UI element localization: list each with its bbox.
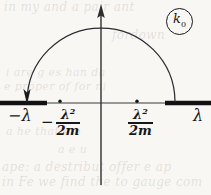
diagram-canvas — [0, 0, 211, 195]
marked-point-right-pole — [135, 100, 138, 103]
complex-plane-contour-figure: in my and a pair ant fordown i are g es … — [0, 0, 211, 195]
marked-point-left-pole — [58, 100, 61, 103]
